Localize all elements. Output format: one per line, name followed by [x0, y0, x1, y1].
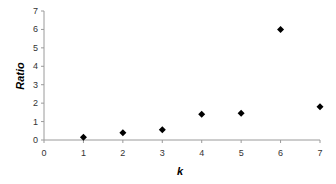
y-tick-label: 6 [33, 24, 38, 34]
data-point-diamond [238, 110, 245, 117]
x-tick-label: 0 [41, 148, 46, 158]
data-point-diamond [159, 126, 166, 133]
x-tick-label: 5 [239, 148, 244, 158]
y-axis-title: Ratio [14, 62, 26, 90]
x-tick-label: 1 [81, 148, 86, 158]
x-tick-label: 7 [317, 148, 322, 158]
y-tick-label: 4 [33, 61, 38, 71]
data-point-diamond [277, 26, 284, 33]
y-tick-label: 7 [33, 6, 38, 16]
x-axis: 01234567 [41, 140, 322, 158]
data-points [80, 26, 324, 141]
y-tick-label: 1 [33, 117, 38, 127]
data-point-diamond [317, 103, 324, 110]
y-axis: 01234567 [33, 6, 44, 145]
data-point-diamond [198, 111, 205, 118]
x-axis-title: k [177, 165, 184, 177]
y-tick-label: 5 [33, 43, 38, 53]
x-tick-label: 2 [120, 148, 125, 158]
y-tick-label: 0 [33, 135, 38, 145]
x-tick-label: 3 [160, 148, 165, 158]
scatter-chart: 01234567 01234567 Ratio k [0, 0, 336, 184]
data-point-diamond [119, 129, 126, 136]
x-tick-label: 6 [278, 148, 283, 158]
x-tick-label: 4 [199, 148, 204, 158]
y-tick-label: 2 [33, 98, 38, 108]
y-tick-label: 3 [33, 80, 38, 90]
